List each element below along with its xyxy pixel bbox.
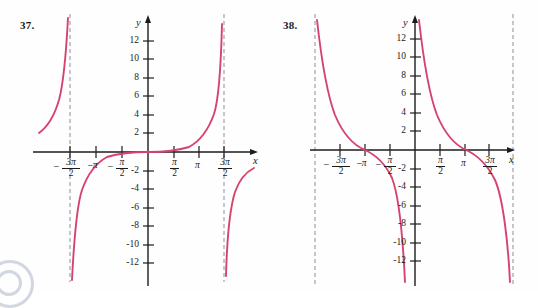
y-tick-label-37-3: 6	[117, 90, 139, 100]
y-tick-label-37-6: -2	[117, 165, 139, 175]
y-tick-label-38-0: 12	[384, 33, 406, 43]
y-axis-arrow-37	[145, 15, 151, 23]
y-axis-arrow-38	[412, 15, 418, 23]
y-tick-label-37-7: -4	[117, 183, 139, 193]
y-axis-label-38: y	[402, 17, 408, 28]
y-tick-label-38-4: 4	[384, 107, 406, 117]
y-tick-label-37-4: 4	[117, 109, 139, 119]
plot-area-37: x y – 3π 2 –π – π 2 π 2	[0, 0, 269, 292]
figure-37: 37.	[0, 0, 269, 292]
x-tick-label-37-4: π	[195, 160, 200, 170]
y-tick-label-38-1: 10	[384, 51, 406, 61]
y-tick-label-38-9: -8	[384, 218, 406, 228]
y-tick-label-37-8: -6	[117, 202, 139, 212]
curve-branch-right-37	[226, 168, 254, 276]
graph-svg-38: x y	[269, 0, 538, 292]
x-tick-label-37-5: 3π 2	[216, 158, 234, 178]
x-tick-label-38-5: 3π 2	[481, 156, 499, 176]
y-tick-label-38-10: -10	[380, 237, 406, 247]
x-tick-label-38-1: –π	[357, 158, 367, 168]
x-tick-label-37-1: –π	[88, 160, 98, 170]
y-tick-label-37-5: 2	[117, 127, 139, 137]
y-tick-label-38-5: 2	[384, 125, 406, 135]
y-tick-label-37-11: -12	[113, 257, 139, 267]
y-tick-label-38-2: 8	[384, 70, 406, 80]
y-tick-label-37-2: 8	[117, 72, 139, 82]
x-tick-label-37-3: π 2	[168, 158, 181, 178]
y-axis-label-37: y	[135, 17, 141, 28]
curve-branch-left-37	[39, 18, 68, 133]
y-tick-label-37-9: -8	[117, 220, 139, 230]
x-tick-label-37-0: – 3π 2	[60, 158, 82, 178]
x-tick-label-38-3: π 2	[434, 156, 447, 176]
y-tick-label-38-11: -12	[380, 255, 406, 265]
figure-38: 38.	[269, 0, 538, 292]
x-tick-label-38-4: π	[461, 158, 466, 168]
x-axis-label-37: x	[252, 155, 258, 166]
x-tick-label-38-0: – 3π 2	[330, 156, 352, 176]
y-tick-label-37-0: 12	[117, 35, 139, 45]
y-tick-label-38-3: 6	[384, 88, 406, 98]
x-axis-label-38: x	[508, 154, 514, 165]
x-axis-arrow-38	[507, 147, 515, 153]
y-tick-label-38-6: -2	[384, 163, 406, 173]
plot-area-38: x y – 3π 2 –π – π 2 π 2	[269, 0, 538, 292]
y-tick-label-38-7: -4	[384, 181, 406, 191]
y-tick-label-37-10: -10	[113, 239, 139, 249]
y-tick-label-37-1: 10	[117, 53, 139, 63]
y-tick-label-38-8: -6	[384, 200, 406, 210]
